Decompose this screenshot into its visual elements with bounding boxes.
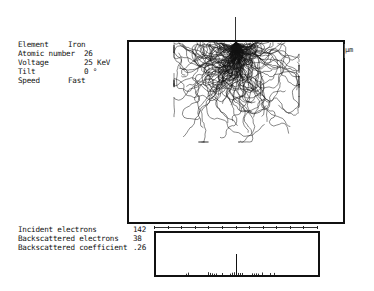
ruler-tick (236, 226, 237, 229)
ruler-tick (181, 226, 182, 229)
backscattered-electrons-value: 38 (133, 234, 142, 243)
incident-electrons-label: Incident electrons (18, 225, 97, 234)
histogram-bars (156, 233, 318, 275)
ruler-tick (276, 226, 277, 229)
speed-value[interactable]: Fast (68, 76, 86, 85)
ruler-tick (168, 226, 169, 229)
ruler-tick (263, 226, 264, 229)
backscatter-histogram (154, 231, 320, 277)
electron-beam-line (235, 17, 236, 41)
speed-label: Speed (18, 76, 40, 85)
ruler-tick (195, 226, 196, 229)
electron-trajectories (129, 42, 343, 222)
tilt-label: Tilt (18, 67, 36, 76)
atomic-number-label: Atomic number (18, 49, 75, 58)
atomic-number-value: 26 (84, 49, 93, 58)
tilt-value[interactable]: 0 ° (84, 67, 97, 76)
ruler-tick (290, 226, 291, 229)
ruler-tick (317, 226, 318, 229)
unit-label: µm (345, 46, 353, 55)
backscattered-coefficient-label: Backscattered coefficient (18, 243, 127, 252)
backscattered-electrons-label: Backscattered electrons (18, 234, 119, 243)
element-label: Element (18, 40, 49, 49)
backscattered-coefficient-value: .26 (133, 243, 146, 252)
voltage-value[interactable]: 25 KeV (84, 58, 110, 67)
ruler-tick (154, 226, 155, 229)
ruler-tick (208, 226, 209, 229)
ruler-tick (303, 226, 304, 229)
incident-electrons-value: 142 (133, 225, 146, 234)
element-value[interactable]: Iron (68, 40, 86, 49)
voltage-label: Voltage (18, 58, 49, 67)
ruler-tick (222, 226, 223, 229)
trajectory-plot (127, 40, 345, 224)
histogram-ruler (154, 227, 318, 228)
ruler-tick (249, 226, 250, 229)
